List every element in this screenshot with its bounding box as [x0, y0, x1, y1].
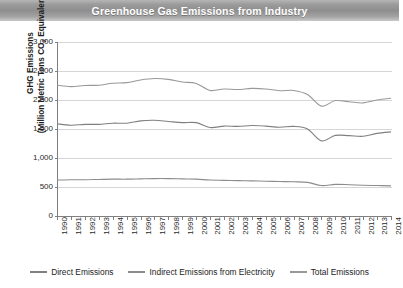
y-tick-label: 1,000 [9, 154, 53, 162]
x-tick-label: 2003 [241, 217, 250, 251]
y-tick-label: 0 [9, 212, 53, 220]
x-tick-label: 1990 [60, 217, 69, 251]
y-tick-label: 2,000 [9, 96, 53, 104]
legend-line-swatch [290, 271, 307, 272]
x-tick-label: 2004 [255, 217, 264, 251]
x-tick-label: 1995 [130, 217, 139, 251]
legend-label: Indirect Emissions from Electricity [149, 267, 274, 277]
x-tick-label: 2013 [380, 217, 389, 251]
x-tick-label: 2008 [311, 217, 320, 251]
x-tick-label: 2000 [200, 217, 209, 251]
x-tick-label: 1997 [158, 217, 167, 251]
y-tick-label: 3,000 [9, 38, 53, 46]
chart-title-bar: Greenhouse Gas Emissions from Industry [0, 0, 399, 21]
y-axis-tick-labels: 3,0002,5002,0001,5001,0005000 [5, 42, 53, 216]
legend-item[interactable]: Total Emissions [290, 267, 369, 277]
x-tick-label: 2002 [227, 217, 236, 251]
x-tick-label: 1999 [186, 217, 195, 251]
series-line [57, 79, 391, 107]
legend-label: Total Emissions [311, 267, 369, 277]
x-tick-label: 2001 [213, 217, 222, 251]
legend-item[interactable]: Direct Emissions [30, 267, 113, 277]
x-tick-label: 2009 [325, 217, 334, 251]
x-axis-tick-labels: 1990199119921993199419951996199719981999… [57, 217, 391, 259]
x-tick-label: 2014 [394, 217, 403, 251]
x-tick-label: 1994 [116, 217, 125, 251]
x-tick-label: 1996 [144, 217, 153, 251]
x-tick-label: 2012 [367, 217, 376, 251]
x-tick-label: 2011 [353, 217, 362, 251]
series-line [57, 179, 391, 186]
x-tick-label: 2010 [339, 217, 348, 251]
x-tick-label: 1991 [74, 217, 83, 251]
y-tick-label: 500 [9, 183, 53, 191]
y-tick-label: 2,500 [9, 67, 53, 75]
chart-lines [57, 42, 391, 216]
series-line [57, 120, 391, 141]
y-tick-label: 1,500 [9, 125, 53, 133]
x-tick-label: 1998 [172, 217, 181, 251]
x-tick-label: 2007 [297, 217, 306, 251]
legend-line-swatch [128, 271, 145, 272]
x-tick-label: 2006 [283, 217, 292, 251]
page-title: Greenhouse Gas Emissions from Industry [92, 5, 308, 17]
legend-line-swatch [30, 271, 47, 272]
legend-label: Direct Emissions [51, 267, 113, 277]
chart-legend: Direct EmissionsIndirect Emissions from … [0, 264, 399, 280]
x-tick-label: 2005 [269, 217, 278, 251]
x-tick-label: 1993 [102, 217, 111, 251]
x-tick-label: 1992 [88, 217, 97, 251]
x-tick-mark [391, 217, 392, 220]
legend-item[interactable]: Indirect Emissions from Electricity [128, 267, 274, 277]
